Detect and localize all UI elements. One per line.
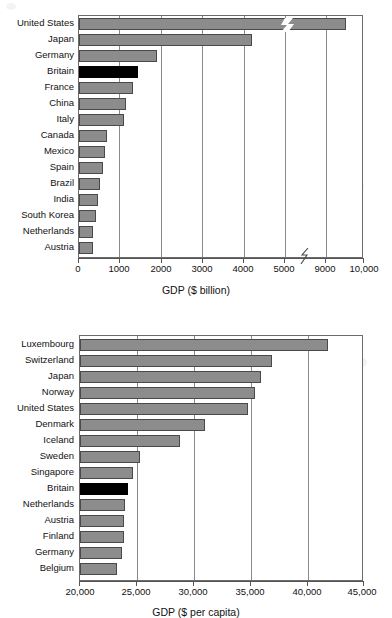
xtick-label: 0 (75, 263, 80, 274)
ylabel-switzerland: Switzerland (25, 354, 74, 365)
ylabel-italy: Italy (57, 113, 74, 124)
gdp-total-bars (79, 16, 362, 257)
bar-austria (80, 515, 124, 527)
gdp-capita-plot-area (79, 335, 363, 581)
ylabel-spain: Spain (50, 161, 74, 172)
bar-united-states (80, 403, 248, 415)
bar-france (79, 82, 133, 94)
ylabel-austria: Austria (44, 514, 74, 525)
ylabel-britain: Britain (47, 482, 74, 493)
bar-row (79, 65, 362, 81)
ylabel-denmark: Denmark (35, 418, 74, 429)
ylabel-india: India (53, 193, 74, 204)
gdp-total-plot-area (78, 15, 363, 258)
bar-row (79, 145, 362, 161)
ylabel-norway: Norway (42, 386, 74, 397)
bar-netherlands (79, 226, 93, 238)
bar-row (80, 354, 362, 370)
bar-row (79, 113, 362, 129)
xtick-label: 25,000 (121, 586, 150, 597)
bar-row (80, 530, 362, 546)
bar-row (80, 562, 362, 578)
xtick-label: 2000 (150, 263, 171, 274)
ylabel-canada: Canada (41, 129, 74, 140)
ylabel-united-states: United States (17, 402, 74, 413)
bar-row (80, 418, 362, 434)
bar-row (79, 225, 362, 241)
ylabel-france: France (44, 81, 74, 92)
gdp-total-bar-chart: United States Japan Germany Britain Fran… (0, 0, 392, 310)
xtick-label: 30,000 (178, 586, 207, 597)
bar-row (80, 546, 362, 562)
bar-italy (79, 114, 124, 126)
xtick-label: 45,000 (347, 586, 376, 597)
bar-row (79, 33, 362, 49)
ylabel-netherlands: Netherlands (23, 498, 74, 509)
bar-row (80, 402, 362, 418)
ylabel-china: China (49, 97, 74, 108)
bar-germany (80, 547, 122, 559)
gdp-per-capita-bar-chart: Luxembourg Switzerland Japan Norway Unit… (0, 310, 392, 618)
bar-mexico (79, 146, 105, 158)
bar-netherlands (80, 499, 125, 511)
ylabel-sweden: Sweden (40, 450, 74, 461)
ylabel-britain: Britain (47, 65, 74, 76)
bar-row (80, 466, 362, 482)
ylabel-japan: Japan (48, 370, 74, 381)
bar-britain (79, 66, 138, 78)
gdp-capita-x-tick-labels: 20,000 25,000 30,000 35,000 40,000 45,00… (0, 586, 392, 600)
ylabel-japan: Japan (48, 33, 74, 44)
bar-sweden (80, 451, 140, 463)
x-axis-break-icon (298, 248, 312, 264)
bar-row (79, 129, 362, 145)
bar-japan (80, 371, 261, 383)
ylabel-mexico: Mexico (44, 145, 74, 156)
xtick-label: 20,000 (65, 586, 94, 597)
ylabel-finland: Finland (43, 530, 74, 541)
ylabel-iceland: Iceland (43, 434, 74, 445)
bar-united-states (79, 18, 346, 30)
bar-row (80, 450, 362, 466)
bar-japan (79, 34, 252, 46)
gdp-total-axis-title: GDP ($ billion) (0, 284, 392, 296)
bar-row (79, 81, 362, 97)
gdp-total-x-tick-labels: 0 1000 2000 3000 4000 5000 9000 10,000 (0, 263, 392, 277)
bar-row (79, 193, 362, 209)
bar-britain (80, 483, 128, 495)
bar-row (80, 498, 362, 514)
ylabel-south-korea: South Korea (21, 209, 74, 220)
xtick-label: 3000 (191, 263, 212, 274)
bar-norway (80, 387, 255, 399)
bar-spain (79, 162, 103, 174)
bar-luxembourg (80, 339, 328, 351)
bar-row (79, 49, 362, 65)
bar-row (80, 482, 362, 498)
bar-india (79, 194, 98, 206)
bar-row (79, 17, 362, 33)
bar-south-korea (79, 210, 96, 222)
xtick-label: 4000 (232, 263, 253, 274)
bar-brazil (79, 178, 100, 190)
ylabel-netherlands: Netherlands (23, 225, 74, 236)
xtick-label: 9000 (314, 263, 335, 274)
ylabel-brazil: Brazil (50, 177, 74, 188)
bar-iceland (80, 435, 180, 447)
bar-row (80, 338, 362, 354)
xtick-label: 5000 (273, 263, 294, 274)
bar-belgium (80, 563, 117, 575)
bar-row (79, 97, 362, 113)
ylabel-germany: Germany (35, 546, 74, 557)
bar-row (79, 241, 362, 257)
ylabel-united-states: United States (17, 17, 74, 28)
xtick-label: 10,000 (349, 263, 378, 274)
bar-row (80, 370, 362, 386)
bar-row (80, 434, 362, 450)
bar-row (79, 177, 362, 193)
bar-row (80, 386, 362, 402)
xtick-label: 40,000 (292, 586, 321, 597)
bar-finland (80, 531, 124, 543)
ylabel-luxembourg: Luxembourg (21, 338, 74, 349)
bar-austria (79, 242, 93, 254)
bar-row (79, 161, 362, 177)
ylabel-singapore: Singapore (31, 466, 74, 477)
